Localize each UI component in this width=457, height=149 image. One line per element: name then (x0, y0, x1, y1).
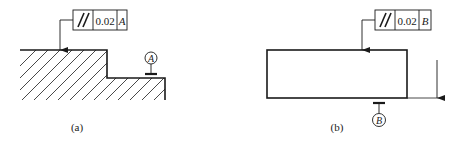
tolerance-value-b: 0.02 (397, 15, 416, 27)
datum-label-a: A (147, 53, 155, 64)
tolerance-frame-a: 0.02 A (73, 10, 127, 30)
leader-arrow-b (362, 20, 375, 50)
datum-symbol-b: B (373, 103, 386, 127)
datum-label-b: B (376, 115, 382, 126)
part-outline-b (267, 50, 407, 98)
datum-symbol-a: A (145, 52, 157, 74)
diagram-canvas: 0.02 A A (a) 0.02 B (0, 0, 457, 149)
tolerance-value-a: 0.02 (95, 15, 114, 27)
figure-b: 0.02 B B (b) (267, 10, 442, 134)
leader-arrow-a (60, 20, 73, 50)
caption-b: (b) (331, 121, 344, 134)
tolerance-datum-a: A (118, 15, 126, 27)
figure-a: 0.02 A A (a) (0, 10, 214, 134)
caption-a: (a) (71, 121, 84, 134)
tolerance-datum-b: B (422, 15, 429, 27)
tolerance-frame-b: 0.02 B (375, 10, 431, 30)
